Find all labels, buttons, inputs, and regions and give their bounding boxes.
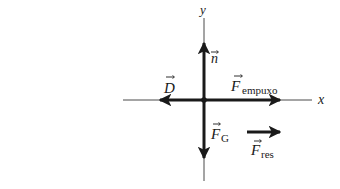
svg-text:F: F (250, 142, 261, 158)
gravity-force-label: F G (210, 123, 229, 145)
svg-text:n: n (211, 51, 218, 66)
resultant-force-label: F res (250, 140, 274, 161)
drag-force-label: D (163, 76, 175, 97)
svg-text:res: res (261, 148, 274, 160)
thrust-force-label: F empuxo (230, 75, 278, 97)
svg-text:D: D (163, 80, 175, 96)
svg-text:F: F (230, 78, 241, 94)
svg-text:F: F (210, 126, 221, 142)
origin-point (201, 97, 207, 103)
x-axis-label: x (317, 92, 325, 107)
svg-text:empuxo: empuxo (242, 84, 278, 96)
normal-force-label: n (211, 51, 219, 67)
free-body-diagram: x y n D F empuxo F G F res (0, 0, 340, 189)
svg-text:G: G (221, 132, 229, 144)
y-axis-label: y (198, 2, 206, 17)
